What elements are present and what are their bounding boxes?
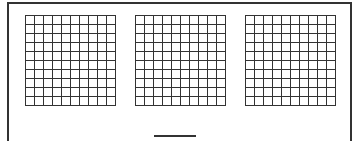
grid-cell [98,97,107,106]
grid-cell [62,61,71,70]
grid-cell [62,16,71,25]
grid-cell [208,97,217,106]
grid-cell [35,97,44,106]
grid-cell [190,61,199,70]
grid-cell [217,43,226,52]
grid-cell [172,88,181,97]
grid-cell [71,88,80,97]
grid-cell [80,52,89,61]
grid-cell [89,52,98,61]
grid-cell [98,61,107,70]
grid-cell [318,61,327,70]
grid-cell [53,43,62,52]
grid-cell [327,79,336,88]
grid-cell [217,25,226,34]
grid-cell [136,25,145,34]
grid-cell [163,88,172,97]
grid-cell [318,70,327,79]
grid-cell [44,97,53,106]
grid-cell [163,97,172,106]
grid-cell [255,70,264,79]
grid-cell [255,52,264,61]
grid-cell [300,97,309,106]
grid-cell [26,52,35,61]
grid-cell [71,97,80,106]
grid-cell [80,16,89,25]
grid-cell [282,16,291,25]
hundred-grid-2 [135,15,226,106]
grid-cell [282,88,291,97]
grid-cell [190,79,199,88]
grid-cell [26,61,35,70]
grid-cell [35,34,44,43]
grid-cell [89,70,98,79]
grid-cell [264,25,273,34]
grid-cell [172,52,181,61]
grid-cell [217,61,226,70]
grid-cell [89,34,98,43]
grid-cell [80,97,89,106]
grid-cell [53,52,62,61]
grid-cell [309,52,318,61]
grid-cell [246,52,255,61]
grid-cell [246,97,255,106]
grid-cell [199,16,208,25]
grid-cell [145,97,154,106]
grid-cell [300,52,309,61]
grid-cell [89,16,98,25]
grid-cell [53,79,62,88]
grid-cell [181,88,190,97]
grid-cell [327,70,336,79]
grid-cell [318,25,327,34]
grid-cell [89,88,98,97]
grid-cell [327,61,336,70]
grid-cell [154,25,163,34]
grid-cell [163,25,172,34]
grid-cell [154,52,163,61]
grid-cell [89,25,98,34]
grid-cell [62,97,71,106]
grid-cell [190,34,199,43]
grid-cell [136,34,145,43]
grid-cell [273,61,282,70]
grid-cell [44,61,53,70]
grid-cell [107,43,116,52]
grid-cell [300,16,309,25]
grid-cell [255,16,264,25]
grid-cell [172,70,181,79]
grid-cell [62,43,71,52]
grid-cell [300,88,309,97]
grid-cell [35,79,44,88]
grid-cell [98,70,107,79]
grid-cell [327,97,336,106]
grid-cell [98,79,107,88]
grid-cell [208,52,217,61]
grid-cell [264,70,273,79]
grid-cell [181,79,190,88]
grid-cell [80,88,89,97]
grid-cell [80,34,89,43]
grid-cell [318,34,327,43]
grid-cell [217,79,226,88]
grid-cell [71,43,80,52]
grid-cell [107,61,116,70]
grid-cell [264,97,273,106]
grid-cell [145,61,154,70]
hundred-grid-1 [25,15,116,106]
grid-cell [300,61,309,70]
grid-cell [291,43,300,52]
grid-cell [35,25,44,34]
grid-cell [145,70,154,79]
grid-cell [107,25,116,34]
grid-cell [291,79,300,88]
grid-cell [255,88,264,97]
grid-cell [80,70,89,79]
grid-cell [255,34,264,43]
grid-cell [89,97,98,106]
grid-cell [145,52,154,61]
grid-cell [300,70,309,79]
grid-cell [98,16,107,25]
grid-cell [282,61,291,70]
hundred-grid-3 [245,15,336,106]
grid-cell [172,43,181,52]
